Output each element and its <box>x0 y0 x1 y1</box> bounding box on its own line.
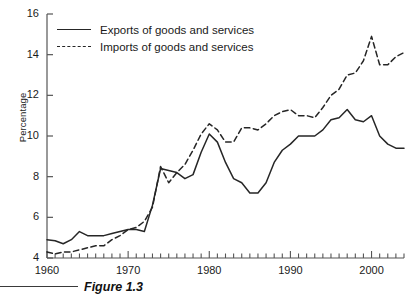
x-tick-label: 1980 <box>187 265 231 276</box>
caption-text: Figure 1.3 <box>84 280 143 294</box>
figure-caption: Figure 1.3 <box>0 276 410 297</box>
legend-item-imports: Imports of goods and services <box>57 38 287 55</box>
x-tick-label: 1970 <box>106 265 150 276</box>
x-tick-label: 1990 <box>268 265 312 276</box>
legend-line-solid-icon <box>57 25 91 35</box>
legend-line-dashed-icon <box>57 42 91 52</box>
chart-legend: Exports of goods and services Imports of… <box>57 21 287 55</box>
figure-1-3: Percentage 46810121416 19601970198019902… <box>0 0 410 297</box>
y-tick-label: 14 <box>17 49 39 60</box>
legend-label-imports: Imports of goods and services <box>100 41 253 53</box>
x-tick-label: 2000 <box>350 265 394 276</box>
y-tick-label: 8 <box>17 171 39 182</box>
legend-item-exports: Exports of goods and services <box>57 21 287 38</box>
series-line-exports <box>47 110 404 244</box>
caption-rule <box>0 286 78 287</box>
legend-label-exports: Exports of goods and services <box>100 24 254 36</box>
x-tick-label: 1960 <box>25 265 69 276</box>
y-tick-label: 12 <box>17 89 39 100</box>
y-tick-label: 4 <box>17 252 39 263</box>
y-tick-label: 10 <box>17 130 39 141</box>
y-tick-label: 16 <box>17 8 39 19</box>
y-tick-label: 6 <box>17 211 39 222</box>
series-line-imports <box>47 36 404 254</box>
